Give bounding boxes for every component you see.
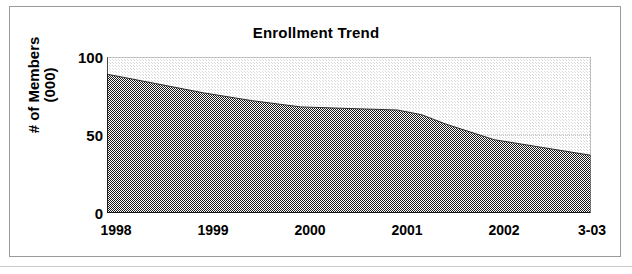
page-separator-rule [0, 266, 632, 267]
y-axis-tick-labels: 100 50 0 [58, 57, 103, 213]
y-tick-label-50: 50 [86, 128, 103, 143]
x-tick-label-2001: 2001 [391, 222, 422, 238]
x-tick-label-2002: 2002 [488, 222, 519, 238]
chart-frame: Enrollment Trend # of Members (000) 100 … [9, 6, 621, 257]
x-tick-label-2000: 2000 [294, 222, 325, 238]
chart-screenshot: Enrollment Trend # of Members (000) 100 … [0, 0, 632, 274]
x-tick-label-1999: 1999 [197, 222, 228, 238]
area-chart-svg [107, 57, 591, 213]
x-tick-label-1998: 1998 [100, 222, 131, 238]
chart-title: Enrollment Trend [10, 24, 622, 41]
y-tick-label-0: 0 [95, 206, 103, 221]
x-tick-label-3-03: 3-03 [578, 222, 606, 238]
plot-area [107, 57, 591, 213]
y-tick-label-100: 100 [78, 50, 103, 65]
